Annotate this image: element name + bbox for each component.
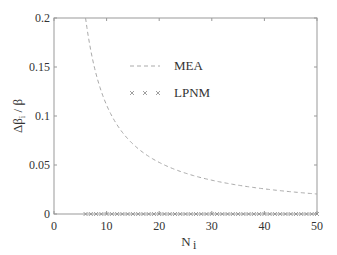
y-tick-label: 0.1 — [35, 109, 50, 123]
legend-lpnm-swatch — [130, 91, 134, 95]
x-tick-label: 10 — [101, 219, 113, 233]
x-tick-label: 20 — [153, 219, 165, 233]
x-axis-label: N — [181, 234, 191, 249]
mea-line — [86, 18, 317, 194]
legend-lpnm-swatch — [156, 91, 160, 95]
legend-lpnm-label: LPNM — [174, 85, 211, 100]
legend-mea-label: MEA — [174, 58, 204, 73]
chart: 0102030405000.050.10.150.2MEALPNMNiΔβi /… — [0, 0, 337, 255]
plot-area: 0102030405000.050.10.150.2MEALPNMNiΔβi /… — [0, 0, 337, 255]
x-tick-label: 0 — [51, 219, 57, 233]
legend-lpnm-swatch — [143, 91, 147, 95]
x-axis-label-sub: i — [193, 238, 197, 252]
y-tick-label: 0 — [44, 207, 50, 221]
axes-box — [54, 18, 317, 214]
x-tick-label: 40 — [258, 219, 270, 233]
x-tick-label: 30 — [206, 219, 218, 233]
x-tick-label: 50 — [311, 219, 323, 233]
y-tick-label: 0.05 — [29, 158, 50, 172]
y-tick-label: 0.15 — [29, 60, 50, 74]
y-tick-label: 0.2 — [35, 11, 50, 25]
y-axis-label: Δβi / β — [10, 99, 27, 134]
